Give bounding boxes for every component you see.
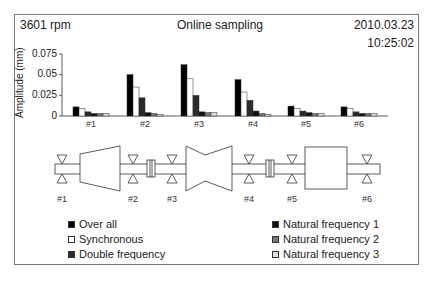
- legend-item-overall: Over all: [68, 218, 117, 230]
- legend-label: Natural frequency 3: [283, 248, 379, 260]
- legend-item-natural-frequency-3: Natural frequency 3: [272, 248, 379, 260]
- legend-item-double-frequency: Double frequency: [68, 248, 165, 260]
- legend-swatch: [68, 236, 75, 243]
- legend-swatch: [68, 221, 75, 228]
- legend-swatch: [272, 221, 279, 228]
- legend-item-natural-frequency-2: Natural frequency 2: [272, 233, 379, 245]
- bearing-label-2: #2: [118, 194, 148, 204]
- legend-label: Natural frequency 2: [283, 233, 379, 245]
- legend-label: Synchronous: [79, 233, 143, 245]
- legend-item-synchronous: Synchronous: [68, 233, 143, 245]
- legend-label: Double frequency: [79, 248, 165, 260]
- legend-item-natural-frequency-1: Natural frequency 1: [272, 218, 379, 230]
- bearing-label-6: #6: [352, 194, 382, 204]
- legend-label: Natural frequency 1: [283, 218, 379, 230]
- legend-swatch: [272, 251, 279, 258]
- bearing-label-1: #1: [47, 194, 77, 204]
- legend-label: Over all: [79, 218, 117, 230]
- bearing-label-5: #5: [277, 194, 307, 204]
- legend-swatch: [272, 236, 279, 243]
- legend-swatch: [68, 251, 75, 258]
- bearing-label-4: #4: [234, 194, 264, 204]
- bearing-label-3: #3: [157, 194, 187, 204]
